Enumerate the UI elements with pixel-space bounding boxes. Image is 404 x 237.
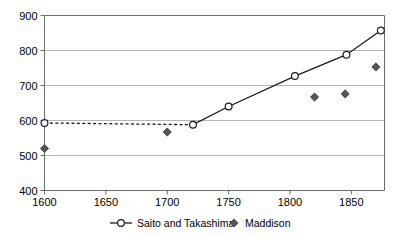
- data-point-marker: [372, 63, 380, 71]
- ytick-label-600: 600: [19, 115, 37, 127]
- data-point-marker: [310, 93, 318, 101]
- ytick-label-900: 900: [19, 10, 37, 22]
- chart-legend: Saito and TakashimaMaddison: [110, 217, 291, 229]
- xtick-label-1850: 1850: [339, 196, 363, 208]
- xtick-label-1800: 1800: [278, 196, 302, 208]
- ytick-label-800: 800: [19, 45, 37, 57]
- series-1: [41, 27, 384, 128]
- ytick-label-700: 700: [19, 80, 37, 92]
- chart-canvas: 4005006007008009001600165017001750180018…: [0, 0, 404, 237]
- data-point-marker: [40, 144, 48, 152]
- legend-marker-circle-saito: [118, 220, 125, 227]
- legend-label-maddison: Maddison: [245, 217, 291, 229]
- ytick-label-500: 500: [19, 150, 37, 162]
- chart-container: 4005006007008009001600165017001750180018…: [0, 0, 404, 237]
- xtick-label-1700: 1700: [155, 196, 179, 208]
- series-2: [40, 63, 380, 153]
- data-point-marker: [377, 27, 384, 34]
- grid-lines: 4005006007008009001600165017001750180018…: [19, 10, 384, 208]
- series-line-solid: [193, 31, 381, 125]
- series-line-dotted: [45, 123, 194, 125]
- data-point-marker: [291, 73, 298, 80]
- data-point-marker: [41, 120, 48, 127]
- data-point-marker: [341, 90, 349, 98]
- data-point-marker: [163, 128, 171, 136]
- xtick-label-1650: 1650: [94, 196, 118, 208]
- xtick-label-1750: 1750: [216, 196, 240, 208]
- xtick-label-1600: 1600: [32, 196, 56, 208]
- legend-label-saito: Saito and Takashima: [137, 217, 234, 229]
- data-point-marker: [225, 103, 232, 110]
- data-point-marker: [343, 51, 350, 58]
- data-point-marker: [190, 121, 197, 128]
